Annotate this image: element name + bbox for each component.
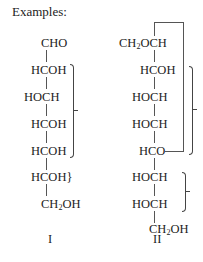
bracket-i (70, 64, 74, 158)
row-hcoh-2: HCOH (31, 117, 66, 131)
row-hoch-1: HOCH (132, 90, 167, 104)
label-i: I (48, 232, 52, 246)
row-hcoh-3: HCOH (31, 144, 66, 158)
row-hoch: HOCH (24, 90, 59, 104)
row-hoch-3: HOCH (132, 170, 167, 184)
row-hcoh-4: HCOH} (31, 170, 72, 184)
heading: Examples: (12, 5, 67, 19)
row-ch2och: CH2OCH (119, 36, 167, 54)
row-ch2oh: CH2OH (41, 197, 80, 215)
bracket-ii-lower (182, 172, 186, 212)
label-ii: II (153, 232, 161, 246)
row-hoch-4: HOCH (132, 197, 167, 211)
bracket-ii-upper (189, 66, 193, 155)
row-hcoh-1: HCOH (31, 63, 66, 77)
row-hco: HCO (139, 144, 165, 158)
row-cho: CHO (41, 36, 67, 50)
row-hoch-2: HOCH (132, 117, 167, 131)
row-hcoh: HCOH (140, 63, 175, 77)
